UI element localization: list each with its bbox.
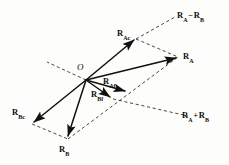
label-r-bf: RBf [91, 90, 103, 101]
origin-label: O [77, 63, 84, 72]
dashed-diff-diagonal [136, 17, 175, 39]
label-r-b-sub: B [65, 151, 69, 157]
label-r-a-sub: A [189, 58, 193, 64]
label-r-b: RB [59, 145, 69, 156]
dashed-sum-diagonal [113, 99, 188, 116]
label-r-bc: RBc [12, 108, 25, 119]
dashed-parallel-bc-b [32, 124, 68, 139]
label-r-af-sub: Af [109, 83, 115, 89]
label-r-a-plus-r-b: RA+RB [182, 111, 209, 122]
label-diff-first-sub: A [183, 17, 187, 23]
label-r-af: RAf [103, 77, 116, 88]
vector-r-bc [34, 80, 86, 122]
label-r-a: RA [183, 52, 194, 63]
vector-diagram: O RAc RA RAf RBf RBc RB RA−RB RA+RB [0, 0, 229, 165]
label-r-a-minus-r-b: RA−RB [177, 11, 204, 22]
label-r-bf-sub: Bf [97, 96, 103, 102]
label-r-ac: RAc [117, 29, 130, 40]
solid-vectors [34, 40, 176, 136]
dashed-parallel-b-to-a [68, 57, 178, 139]
dashed-parallel-ac-to-a [136, 39, 178, 57]
label-diff-second-sub: B [200, 17, 204, 23]
label-sum-first-sub: A [188, 117, 192, 123]
label-r-ac-sub: Ac [123, 35, 130, 41]
label-r-bc-sub: Bc [18, 114, 25, 120]
label-sum-second-sub: B [205, 117, 209, 123]
